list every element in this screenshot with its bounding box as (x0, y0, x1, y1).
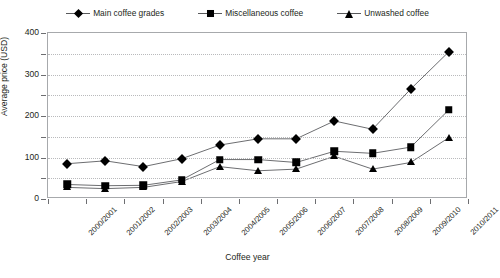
gridline-major (48, 75, 466, 76)
legend-line-sample (66, 9, 90, 18)
data-point-triangle-2008-2009[interactable] (369, 165, 377, 172)
x-axis-tick-label: 2004/2005 (239, 205, 271, 237)
legend-label: Main coffee grades (93, 9, 164, 18)
y-axis-tick (41, 158, 46, 159)
y-axis-tick (41, 178, 46, 179)
y-axis-tick (41, 95, 46, 96)
x-axis-tick (315, 199, 316, 204)
data-point-triangle-2010-2011[interactable] (445, 134, 453, 141)
legend-label: Unwashed coffee (364, 9, 429, 18)
x-axis-tick (392, 199, 393, 204)
x-axis-tick-label: 2003/2004 (201, 205, 233, 237)
y-axis-tick-label: 400 (25, 27, 39, 37)
x-axis-tick-label: 2009/2010 (430, 205, 462, 237)
x-axis-tick (353, 199, 354, 204)
legend-label: Miscellaneous coffee (225, 9, 303, 18)
x-axis-tick-label: 2001/2002 (125, 205, 157, 237)
data-point-triangle-2005-2006[interactable] (254, 167, 262, 174)
x-axis-tick-label: 2006/2007 (316, 205, 348, 237)
y-axis-tick (41, 199, 46, 200)
x-axis-tick (163, 199, 164, 204)
y-axis-tick-label: 300 (25, 69, 39, 79)
chart-legend: Main coffee grades Miscellaneous coffee … (0, 4, 495, 22)
x-axis-tick-label: 2008/2009 (392, 205, 424, 237)
data-point-triangle-2000-2001[interactable] (63, 183, 71, 190)
y-axis-tick (41, 54, 46, 55)
series-line-main-coffee-grades (67, 52, 449, 167)
legend-line-sample (337, 9, 361, 18)
y-axis-tick-label: 100 (25, 152, 39, 162)
y-axis-tick-label: 200 (25, 110, 39, 120)
x-axis-tick (239, 199, 240, 204)
x-axis-tick (430, 199, 431, 204)
square-marker-icon (207, 9, 214, 16)
x-axis-tick (86, 199, 87, 204)
data-point-triangle-2003-2004[interactable] (178, 178, 186, 185)
data-point-square-2005-2006[interactable] (254, 156, 262, 164)
data-point-triangle-2002-2003[interactable] (139, 183, 147, 190)
x-axis-tick-label: 2002/2003 (163, 205, 195, 237)
gridline-minor (48, 54, 466, 55)
y-axis-title: Average price (USD) (0, 37, 9, 116)
y-axis-tick-label: 0 (34, 193, 39, 203)
x-axis-tick (277, 199, 278, 204)
x-axis-tick (201, 199, 202, 204)
data-point-square-2008-2009[interactable] (369, 150, 377, 158)
data-point-triangle-2004-2005[interactable] (216, 163, 224, 170)
data-point-triangle-2009-2010[interactable] (407, 158, 415, 165)
plot-area (47, 32, 467, 198)
legend-line-sample (198, 9, 222, 18)
x-axis-title: Coffee year (0, 252, 495, 262)
x-axis-tick (48, 199, 49, 204)
data-point-triangle-2001-2002[interactable] (101, 185, 109, 192)
x-axis-tick-label: 2007/2008 (354, 205, 386, 237)
y-axis-tick (41, 116, 46, 117)
series-line-miscellaneous-coffee (67, 110, 449, 186)
gridline-minor (48, 95, 466, 96)
x-axis-tick-label: 2010/2011 (468, 205, 500, 237)
gridline-minor (48, 178, 466, 179)
y-axis-tick (41, 137, 46, 138)
x-axis-tick (124, 199, 125, 204)
legend-item-miscellaneous-coffee[interactable]: Miscellaneous coffee (198, 9, 303, 18)
data-point-square-2009-2010[interactable] (407, 143, 415, 151)
x-axis-tick (468, 199, 469, 204)
diamond-marker-icon (74, 8, 83, 17)
x-axis-tick-label: 2005/2006 (278, 205, 310, 237)
legend-item-unwashed-coffee[interactable]: Unwashed coffee (337, 9, 429, 18)
gridline-major (48, 116, 466, 117)
x-axis-tick-label: 2000/2001 (87, 205, 119, 237)
y-axis-tick (41, 75, 46, 76)
y-axis-tick (41, 33, 46, 34)
data-point-square-2010-2011[interactable] (445, 106, 453, 114)
data-point-triangle-2006-2007[interactable] (292, 165, 300, 172)
legend-item-main-coffee-grades[interactable]: Main coffee grades (66, 9, 164, 18)
data-point-triangle-2007-2008[interactable] (330, 152, 338, 159)
triangle-marker-icon (345, 10, 353, 18)
